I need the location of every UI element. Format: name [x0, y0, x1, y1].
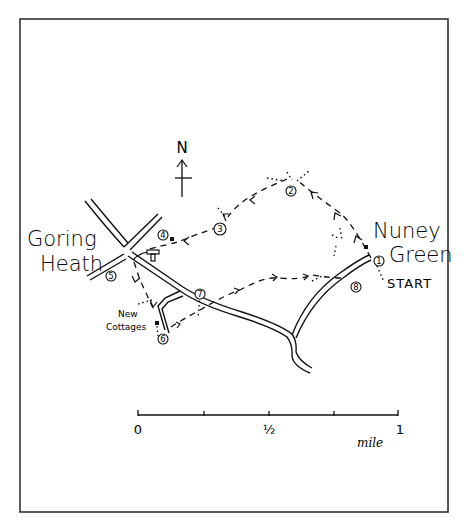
start-label: START — [387, 276, 432, 291]
walk-route — [132, 179, 371, 328]
svg-text:7: 7 — [197, 289, 202, 299]
waypoint-7: 7 — [195, 289, 205, 299]
svg-text:3: 3 — [217, 224, 222, 234]
svg-text:8: 8 — [353, 282, 358, 292]
scale-label-1: 1 — [396, 422, 404, 437]
svg-text:5: 5 — [108, 271, 113, 281]
building-marker — [170, 237, 174, 241]
scale-unit: mile — [357, 436, 383, 450]
place-new: New — [118, 309, 138, 319]
svg-text:4: 4 — [160, 230, 165, 240]
place-nuney: Nuney — [373, 219, 441, 243]
place-heath: Heath — [40, 252, 103, 276]
waypoint-2: 2 — [286, 186, 296, 196]
footpaths — [138, 171, 384, 336]
place-cottages: Cottages — [106, 322, 147, 332]
scale-label-0: 0 — [134, 422, 142, 437]
svg-text:1: 1 — [376, 256, 381, 266]
waypoint-6: 6 — [158, 334, 168, 344]
north-arrow-icon: N — [175, 139, 192, 197]
waypoint-1: 1 — [374, 256, 384, 266]
place-goring: Goring — [27, 227, 97, 251]
north-label: N — [176, 139, 187, 157]
building-marker — [364, 245, 368, 249]
waypoint-5: 5 — [106, 271, 116, 281]
scale-bar: 0 ½ 1 mile — [134, 410, 404, 450]
waypoint-8: 8 — [351, 282, 361, 292]
svg-text:6: 6 — [160, 334, 165, 344]
roads — [85, 199, 371, 373]
walk-map: N — [0, 0, 466, 530]
svg-text:2: 2 — [288, 186, 293, 196]
place-green: Green — [389, 243, 453, 267]
scale-label-half: ½ — [263, 422, 276, 437]
waypoint-4: 4 — [158, 230, 168, 240]
building-marker — [155, 321, 159, 325]
waypoint-3: 3 — [214, 223, 226, 235]
